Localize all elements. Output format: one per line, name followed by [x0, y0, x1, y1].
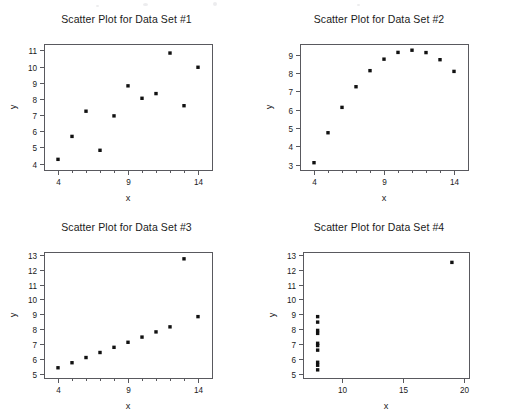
y-tick-label: 4: [32, 161, 37, 170]
scan-artifact: [357, 4, 360, 6]
plot-frame: [45, 45, 213, 171]
y-tick-label: 13: [287, 252, 297, 261]
data-point: [326, 131, 329, 134]
y-tick-label: 7: [288, 88, 293, 97]
y-tick-label: 5: [288, 125, 293, 134]
y-tick-label: 8: [32, 96, 37, 105]
x-tick-label: 9: [382, 178, 387, 187]
data-point: [316, 361, 319, 364]
plot-area: 56789101112134914xy: [0, 208, 253, 416]
data-point: [368, 69, 371, 72]
x-tick-label: 9: [126, 386, 131, 395]
data-point: [168, 51, 171, 54]
y-tick-label: 8: [32, 326, 37, 335]
data-points: [56, 51, 199, 161]
x-tick-label: 15: [399, 386, 409, 395]
x-axis-title: x: [126, 401, 131, 411]
plot-area: 45678910114914xy: [0, 0, 253, 208]
scan-artifact: [143, 3, 148, 6]
data-point: [382, 57, 385, 60]
data-point: [98, 149, 101, 152]
y-tick-label: 9: [288, 52, 293, 61]
y-tick-label: 10: [28, 296, 38, 305]
data-point: [112, 114, 115, 117]
y-tick-label: 7: [291, 341, 296, 350]
y-axis-title: y: [8, 312, 18, 317]
data-points: [316, 261, 454, 372]
data-point: [196, 66, 199, 69]
y-tick-label: 3: [288, 162, 293, 171]
scatter-plot-grid: Scatter Plot for Data Set #1456789101149…: [0, 0, 505, 416]
y-tick-label: 4: [288, 143, 293, 152]
data-point: [168, 325, 171, 328]
data-point: [84, 356, 87, 359]
scatter-panel-2: Scatter Plot for Data Set #234567894914x…: [253, 0, 505, 208]
data-point: [140, 335, 143, 338]
data-point: [182, 257, 185, 260]
data-point: [140, 97, 143, 100]
data-point: [450, 261, 453, 264]
data-point: [56, 366, 59, 369]
y-tick-label: 8: [288, 70, 293, 79]
data-point: [452, 70, 455, 73]
y-tick-label: 13: [28, 252, 38, 261]
y-tick-label: 6: [288, 107, 293, 116]
y-tick-label: 11: [288, 282, 297, 291]
data-point: [70, 135, 73, 138]
data-point: [196, 315, 199, 318]
data-point: [316, 332, 319, 335]
data-point: [396, 51, 399, 54]
data-points: [312, 49, 455, 165]
data-point: [126, 341, 129, 344]
y-axis-title: y: [264, 104, 274, 109]
y-tick-label: 7: [32, 341, 37, 350]
x-tick-label: 14: [450, 178, 460, 187]
x-tick-label: 4: [56, 178, 61, 187]
y-tick-label: 9: [32, 311, 37, 320]
data-point: [154, 330, 157, 333]
y-tick-label: 12: [28, 267, 38, 276]
y-tick-label: 11: [29, 282, 38, 291]
data-point: [316, 315, 319, 318]
y-tick-label: 5: [291, 371, 296, 380]
x-axis-title: x: [382, 193, 387, 203]
scan-artifact: [96, 5, 99, 7]
x-tick-label: 4: [312, 178, 317, 187]
y-tick-label: 9: [32, 80, 37, 89]
y-axis-title: y: [8, 104, 18, 109]
x-tick-label: 14: [194, 178, 204, 187]
data-point: [438, 58, 441, 61]
y-tick-label: 6: [32, 356, 37, 365]
x-tick-label: 14: [194, 386, 204, 395]
data-point: [56, 158, 59, 161]
y-tick-label: 6: [32, 128, 37, 137]
y-tick-label: 7: [32, 112, 37, 121]
data-point: [154, 92, 157, 95]
scatter-panel-4: Scatter Plot for Data Set #4567891011121…: [253, 208, 505, 416]
y-tick-label: 8: [291, 326, 296, 335]
x-tick-label: 4: [56, 386, 61, 395]
data-point: [182, 104, 185, 107]
y-axis-title: y: [267, 312, 277, 317]
plot-area: 34567894914xy: [253, 0, 505, 208]
x-axis-title: x: [126, 193, 131, 203]
data-point: [316, 368, 319, 371]
data-point: [340, 106, 343, 109]
data-point: [316, 329, 319, 332]
data-point: [316, 320, 319, 323]
x-tick-label: 10: [338, 386, 348, 395]
data-point: [316, 364, 319, 367]
plot-frame: [45, 253, 213, 379]
scan-artifact: [213, 2, 217, 6]
data-point: [316, 344, 319, 347]
x-tick-label: 20: [460, 386, 470, 395]
scatter-panel-3: Scatter Plot for Data Set #3567891011121…: [0, 208, 253, 416]
y-tick-label: 9: [291, 311, 296, 320]
data-point: [70, 361, 73, 364]
scatter-panel-1: Scatter Plot for Data Set #1456789101149…: [0, 0, 253, 208]
data-point: [410, 49, 413, 52]
data-point: [312, 161, 315, 164]
data-point: [112, 346, 115, 349]
y-tick-label: 5: [32, 144, 37, 153]
plot-frame: [304, 253, 470, 379]
